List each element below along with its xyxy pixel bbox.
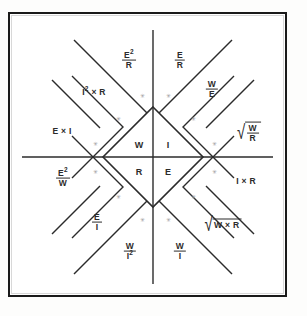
sector-marker-icon: ✳	[191, 116, 196, 122]
formula-power-e-x-i: E × I	[52, 127, 71, 136]
diag-down-left-from-bot	[74, 201, 147, 274]
fraction-w-over-i: W I	[174, 242, 186, 261]
formula-resistance-e2-over-w: E2 W	[56, 169, 70, 188]
sector-marker-icon: ✳	[93, 141, 98, 147]
sector-marker-icon: ✳	[140, 93, 145, 99]
fraction-w-over-i2: W I2	[124, 242, 136, 261]
fraction-denominator: W	[56, 179, 70, 188]
fraction-w-over-e: W E	[206, 80, 218, 99]
sector-marker-icon: ✳	[212, 141, 217, 147]
center-letter-current: I	[167, 140, 170, 150]
fraction-e2-over-r: E2 R	[122, 51, 136, 70]
sector-marker-icon: ✳	[212, 169, 217, 175]
formula-current-sqrt-w-over-r: √WR	[237, 122, 261, 143]
diag-up-right-from-top	[159, 40, 232, 113]
fraction-denominator: E	[206, 90, 218, 99]
sector-marker-icon: ✳	[93, 169, 98, 175]
formula-current-w-over-e: W E	[206, 80, 218, 99]
sector-marker-icon: ✳	[140, 217, 145, 223]
wheel-lines	[0, 0, 307, 316]
fraction-denominator: R	[247, 134, 259, 143]
diag-down-right-from-bot	[159, 201, 232, 274]
sector-marker-icon: ✳	[116, 194, 121, 200]
diag-up-left-from-top	[74, 40, 147, 113]
radical-sign: √	[205, 213, 214, 233]
fraction-e-over-i: E I	[92, 213, 102, 232]
radicand: WR	[245, 122, 261, 143]
fraction-denominator: I	[92, 223, 102, 232]
sector-marker-icon: ✳	[166, 217, 171, 223]
formula-resistance-e-over-i: E I	[92, 213, 102, 232]
fraction-denominator: R	[175, 61, 185, 70]
diagram-page: W I R E E2 R E R I2 × R W E E × I √WR	[0, 0, 307, 316]
formula-current-e-over-r: E R	[175, 51, 185, 70]
sector-marker-icon: ✳	[166, 93, 171, 99]
formula-voltage-sqrt-w-x-r: √W × R	[205, 217, 242, 232]
fraction-denominator: I2	[124, 252, 136, 261]
center-letter-voltage: E	[165, 167, 171, 177]
center-letter-power: W	[135, 140, 144, 150]
formula-voltage-i-x-r: I × R	[236, 177, 256, 186]
formula-voltage-w-over-i: W I	[174, 242, 186, 261]
product-i2-x-r: I2 × R	[82, 87, 106, 97]
radical-sign: √	[237, 121, 246, 141]
sector-marker-icon: ✳	[191, 194, 196, 200]
formula-power-e2-over-r: E2 R	[122, 51, 136, 70]
fraction-denominator: R	[122, 61, 136, 70]
radicand: W × R	[212, 219, 241, 230]
sector-marker-icon: ✳	[116, 116, 121, 122]
center-letter-resistance: R	[136, 167, 143, 177]
formula-power-i2-x-r: I2 × R	[82, 88, 106, 97]
sqrt-w-over-r: √WR	[237, 122, 261, 143]
sqrt-w-x-r: √W × R	[205, 217, 242, 232]
fraction-e2-over-w: E2 W	[56, 169, 70, 188]
product-i-x-r: I × R	[236, 176, 256, 186]
product-e-x-i: E × I	[52, 126, 71, 136]
formula-resistance-w-over-i2: W I2	[124, 242, 136, 261]
fraction-e-over-r: E R	[175, 51, 185, 70]
fraction-denominator: I	[174, 252, 186, 261]
